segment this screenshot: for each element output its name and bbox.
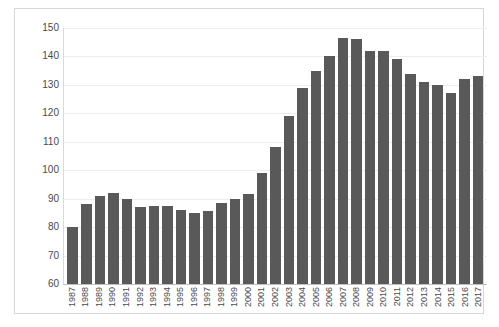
x-tick-label-2002: 2002 bbox=[270, 287, 279, 307]
x-tick-label-1998: 1998 bbox=[216, 287, 225, 307]
y-tick-label-130: 130 bbox=[29, 80, 59, 90]
bar-2004 bbox=[297, 88, 308, 284]
x-tick-label-2009: 2009 bbox=[365, 287, 374, 307]
y-tick-label-100: 100 bbox=[29, 165, 59, 175]
bar-1992 bbox=[135, 207, 146, 284]
x-tick-label-2004: 2004 bbox=[298, 287, 307, 307]
x-tick-label-2000: 2000 bbox=[243, 287, 252, 307]
bar-2000 bbox=[243, 194, 254, 284]
x-tick-label-2006: 2006 bbox=[325, 287, 334, 307]
bar-slot bbox=[93, 28, 107, 284]
x-tick-label-1991: 1991 bbox=[121, 287, 130, 307]
x-tick-slot: 1999 bbox=[228, 286, 242, 320]
bar-slot bbox=[228, 28, 242, 284]
bar-slot bbox=[80, 28, 94, 284]
x-tick-label-1988: 1988 bbox=[81, 287, 90, 307]
x-tick-slot: 1991 bbox=[119, 286, 133, 320]
x-tick-slot: 2010 bbox=[377, 286, 391, 320]
x-tick-slot: 2001 bbox=[255, 286, 269, 320]
x-tick-slot: 2015 bbox=[444, 286, 458, 320]
y-tick-label-140: 140 bbox=[29, 51, 59, 61]
bar-chart: 60708090100110120130140150 1987198819891… bbox=[0, 0, 499, 327]
bar-1996 bbox=[189, 213, 200, 284]
x-tick-slot: 1987 bbox=[65, 286, 79, 320]
bar-slot bbox=[161, 28, 175, 284]
x-tick-label-2010: 2010 bbox=[379, 287, 388, 307]
x-tick-label-1987: 1987 bbox=[67, 287, 76, 307]
x-tick-label-1990: 1990 bbox=[108, 287, 117, 307]
x-tick-label-2007: 2007 bbox=[338, 287, 347, 307]
x-tick-label-1992: 1992 bbox=[135, 287, 144, 307]
x-tick-label-2014: 2014 bbox=[433, 287, 442, 307]
x-tick-label-2015: 2015 bbox=[447, 287, 456, 307]
bar-slot bbox=[147, 28, 161, 284]
bar-slot bbox=[255, 28, 269, 284]
bar-1991 bbox=[122, 199, 133, 284]
x-tick-slot: 2002 bbox=[268, 286, 282, 320]
bar-series bbox=[64, 28, 487, 284]
y-tick-label-150: 150 bbox=[29, 23, 59, 33]
bar-2008 bbox=[351, 39, 362, 284]
bar-slot bbox=[134, 28, 148, 284]
x-tick-slot: 1989 bbox=[92, 286, 106, 320]
x-tick-slot: 2004 bbox=[295, 286, 309, 320]
x-tick-label-1999: 1999 bbox=[230, 287, 239, 307]
x-tick-label-1994: 1994 bbox=[162, 287, 171, 307]
bar-1987 bbox=[67, 227, 78, 284]
x-tick-slot: 2005 bbox=[309, 286, 323, 320]
bar-slot bbox=[458, 28, 472, 284]
x-tick-slot: 2007 bbox=[336, 286, 350, 320]
bar-slot bbox=[471, 28, 485, 284]
bar-1993 bbox=[149, 206, 160, 284]
bar-1997 bbox=[203, 211, 214, 284]
bar-slot bbox=[363, 28, 377, 284]
x-tick-label-1997: 1997 bbox=[203, 287, 212, 307]
bar-slot bbox=[323, 28, 337, 284]
bar-slot bbox=[390, 28, 404, 284]
x-tick-slot: 1994 bbox=[160, 286, 174, 320]
bar-2016 bbox=[459, 79, 470, 284]
x-tick-label-2001: 2001 bbox=[257, 287, 266, 307]
x-tick-slot: 1992 bbox=[133, 286, 147, 320]
bar-2015 bbox=[446, 93, 457, 284]
bar-slot bbox=[215, 28, 229, 284]
bar-slot bbox=[309, 28, 323, 284]
x-tick-slot: 2014 bbox=[431, 286, 445, 320]
bar-slot bbox=[444, 28, 458, 284]
x-tick-slot: 2009 bbox=[363, 286, 377, 320]
y-tick-label-60: 60 bbox=[29, 279, 59, 289]
bar-2012 bbox=[405, 74, 416, 284]
x-tick-label-2017: 2017 bbox=[474, 287, 483, 307]
x-tick-slot: 1995 bbox=[173, 286, 187, 320]
bar-2011 bbox=[392, 59, 403, 284]
bar-1998 bbox=[216, 203, 227, 284]
y-tick-label-120: 120 bbox=[29, 108, 59, 118]
bar-2001 bbox=[257, 173, 268, 284]
bar-2010 bbox=[378, 51, 389, 284]
x-tick-label-2013: 2013 bbox=[419, 287, 428, 307]
x-tick-slot: 2003 bbox=[282, 286, 296, 320]
bar-1994 bbox=[162, 206, 173, 284]
bar-slot bbox=[404, 28, 418, 284]
y-tick-label-80: 80 bbox=[29, 222, 59, 232]
y-axis: 60708090100110120130140150 bbox=[25, 28, 59, 285]
bar-2005 bbox=[311, 71, 322, 284]
bar-slot bbox=[336, 28, 350, 284]
x-tick-label-2008: 2008 bbox=[352, 287, 361, 307]
bar-2014 bbox=[432, 85, 443, 284]
x-tick-slot: 2016 bbox=[458, 286, 472, 320]
y-tick-label-70: 70 bbox=[29, 251, 59, 261]
bar-1989 bbox=[95, 196, 106, 284]
x-tick-slot: 1990 bbox=[106, 286, 120, 320]
bar-slot bbox=[66, 28, 80, 284]
x-tick-slot: 1993 bbox=[146, 286, 160, 320]
bar-slot bbox=[201, 28, 215, 284]
bar-slot bbox=[282, 28, 296, 284]
bar-slot bbox=[242, 28, 256, 284]
bar-2006 bbox=[324, 56, 335, 284]
x-tick-label-2016: 2016 bbox=[460, 287, 469, 307]
bar-1988 bbox=[81, 204, 92, 284]
bar-2002 bbox=[270, 147, 281, 284]
bar-slot bbox=[431, 28, 445, 284]
x-tick-slot: 2017 bbox=[471, 286, 485, 320]
